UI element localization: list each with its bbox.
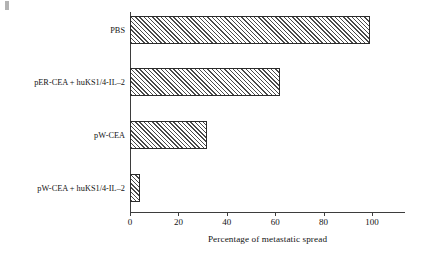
bar-2 xyxy=(130,121,207,149)
figure-canvas: PBSpER-CEA + huKS1/4-IL–2pW-CEApW-CEA + … xyxy=(0,0,435,255)
x-tick-mark-60 xyxy=(275,212,276,216)
bar-rect xyxy=(130,174,140,202)
category-label-text: pER-CEA + huKS1/4-IL–2 xyxy=(34,78,125,87)
bar-rect xyxy=(130,16,370,44)
category-label-text: pW-CEA + huKS1/4-IL–2 xyxy=(37,184,125,193)
x-tick-mark-40 xyxy=(227,212,228,216)
category-label-1: pER-CEA + huKS1/4-IL–2 xyxy=(0,68,130,96)
category-label-0: PBS xyxy=(0,16,130,44)
x-tick-label-40: 40 xyxy=(212,217,242,227)
bar-1 xyxy=(130,68,280,96)
x-tick-mark-100 xyxy=(372,212,373,216)
x-tick-mark-0 xyxy=(130,212,131,216)
bar-rect xyxy=(130,68,280,96)
category-label-text: PBS xyxy=(110,26,125,35)
x-tick-label-80: 80 xyxy=(309,217,339,227)
x-tick-label-60: 60 xyxy=(260,217,290,227)
x-tick-label-100: 100 xyxy=(357,217,387,227)
bar-0 xyxy=(130,16,370,44)
category-label-3: pW-CEA + huKS1/4-IL–2 xyxy=(0,174,130,202)
bar-rect xyxy=(130,121,207,149)
x-tick-mark-80 xyxy=(324,212,325,216)
scan-artifact-speck xyxy=(5,1,9,10)
x-tick-mark-20 xyxy=(178,212,179,216)
x-axis-title: Percentage of metastatic spread xyxy=(130,234,405,244)
x-tick-label-20: 20 xyxy=(163,217,193,227)
category-label-2: pW-CEA xyxy=(0,121,130,149)
x-tick-label-0: 0 xyxy=(115,217,145,227)
bar-3 xyxy=(130,174,140,202)
x-axis-line xyxy=(130,212,405,213)
category-label-text: pW-CEA xyxy=(94,131,125,140)
